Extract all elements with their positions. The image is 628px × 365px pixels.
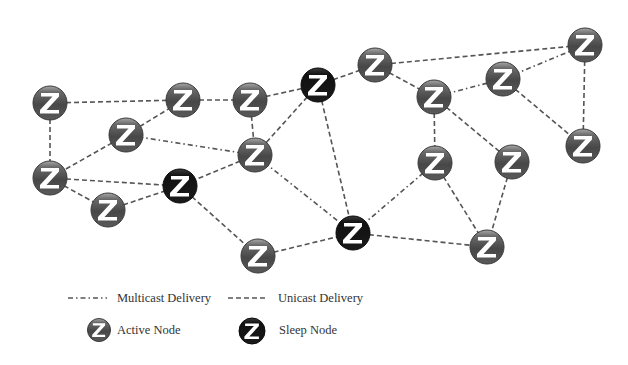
active-node-R <box>241 239 275 273</box>
active-node-N <box>418 146 452 180</box>
legend-sleep: Sleep Node <box>239 318 337 344</box>
active-node-B <box>109 118 143 152</box>
legend-active: Active Node <box>88 319 181 342</box>
multicast-edge-J-Q <box>255 155 353 233</box>
active-node-icon <box>88 319 111 342</box>
legend-unicast: Unicast Delivery <box>228 291 364 305</box>
active-node-J <box>238 138 272 172</box>
node-layer <box>33 28 602 273</box>
unicast-edge-E-Q <box>318 85 353 233</box>
legend-sleep-label: Sleep Node <box>279 323 337 337</box>
legend-multicast-label: Multicast Delivery <box>117 291 212 305</box>
multicast-edge-B-J <box>126 135 255 155</box>
sleep-node-E <box>301 68 335 102</box>
active-node-legend-icon <box>88 319 111 342</box>
active-node-S <box>470 230 504 264</box>
sleep-node-icon <box>239 318 265 344</box>
active-node-L <box>91 193 125 227</box>
unicast-edge-Q-S <box>353 233 487 247</box>
active-node-C <box>166 83 200 117</box>
active-node-F <box>358 48 392 82</box>
legend-active-label: Active Node <box>117 323 181 337</box>
legend-multicast: Multicast Delivery <box>68 291 212 305</box>
active-node-I <box>568 28 602 62</box>
active-node-H <box>486 62 520 96</box>
active-node-O <box>495 145 529 179</box>
sleep-node-legend-icon <box>239 318 265 344</box>
network-diagram: Multicast Delivery Unicast Delivery Acti… <box>0 0 628 365</box>
legend-unicast-label: Unicast Delivery <box>278 291 364 305</box>
unicast-edge-A-C <box>50 100 183 103</box>
active-node-D <box>233 83 267 117</box>
unicast-edge-F-I <box>375 45 585 65</box>
legend: Multicast Delivery Unicast Delivery Acti… <box>68 291 364 344</box>
active-node-K <box>33 161 67 195</box>
active-node-P <box>566 129 600 163</box>
active-node-G <box>417 80 451 114</box>
sleep-node-M <box>163 169 197 203</box>
active-node-A <box>33 86 67 120</box>
unicast-edge-K-M <box>50 178 180 186</box>
sleep-node-Q <box>336 216 370 250</box>
